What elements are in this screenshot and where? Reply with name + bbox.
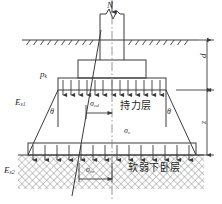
sigma-cz-label: σcz [86, 166, 94, 175]
diagram-svg [0, 0, 222, 204]
ground-surface-line [22, 40, 198, 45]
sigma-cd-subscript: cd [94, 103, 99, 108]
bearing-layer-label: 持力层 [120, 101, 152, 111]
depth-dimension-lines [176, 40, 214, 155]
angle-theta-right-label: θ [167, 108, 171, 116]
angle-theta-left-label: θ [50, 108, 54, 116]
sigma-z-label: σz [124, 127, 130, 136]
depth-z-label: z [200, 121, 208, 124]
sigma-z-subscript: z [128, 130, 130, 135]
modulus-top-label: Es1 [15, 98, 25, 108]
base-pressure-arrows [63, 80, 160, 95]
modulus-bottom-subscript: s2 [10, 169, 15, 175]
axial-load-label: N [107, 1, 113, 10]
base-pressure-label: pk [40, 70, 47, 80]
base-pressure-subscript: k [45, 73, 47, 79]
depth-d-label: d [199, 54, 208, 59]
sigma-cz-subscript: cz [90, 169, 94, 174]
sigma-cd-label: σcd [90, 100, 99, 109]
modulus-bottom-label: Es2 [4, 166, 14, 176]
modulus-top-subscript: s1 [21, 101, 26, 107]
soft-layer-label: 软弱下卧层 [128, 163, 181, 173]
figure-container: N pk Es1 Es2 θ θ σcd σz σcz d z 持力层 软弱下卧… [0, 0, 222, 204]
